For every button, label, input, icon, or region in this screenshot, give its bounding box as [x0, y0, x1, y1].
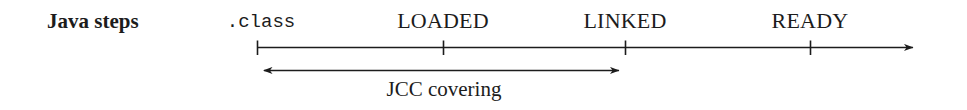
stage-label-ready: READY	[772, 10, 849, 32]
java-steps-timeline-figure: Java steps .class LOADED LINKED READY JC…	[0, 0, 967, 110]
stage-label-class-file: .class	[227, 13, 295, 32]
row-label-java-steps: Java steps	[47, 11, 139, 32]
stage-label-loaded: LOADED	[397, 10, 489, 32]
span-label-jcc-covering: JCC covering	[387, 79, 502, 100]
stage-label-linked: LINKED	[583, 10, 666, 32]
